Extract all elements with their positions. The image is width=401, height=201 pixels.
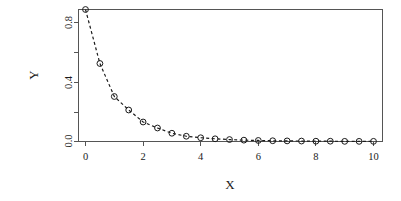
x-tick-label: 2 <box>140 151 145 162</box>
x-tick-label: 6 <box>256 151 261 162</box>
y-tick-label: 0.8 <box>63 16 74 29</box>
x-tick-label: 10 <box>368 151 379 162</box>
x-tick-label: 4 <box>198 151 204 162</box>
x-tick-label: 8 <box>313 151 318 162</box>
plot-background <box>0 0 401 201</box>
x-tick-label: 0 <box>83 151 88 162</box>
exponential-decay-plot: 0.8 0.4 0.0 0 2 4 6 8 10 Y X <box>0 0 401 201</box>
y-tick-label: 0.0 <box>63 134 74 147</box>
chart-screenshot: 0.8 0.4 0.0 0 2 4 6 8 10 Y X <box>0 0 401 201</box>
x-axis-title: X <box>225 177 235 192</box>
y-axis-title: Y <box>26 70 41 80</box>
y-tick-label: 0.4 <box>63 75 74 89</box>
